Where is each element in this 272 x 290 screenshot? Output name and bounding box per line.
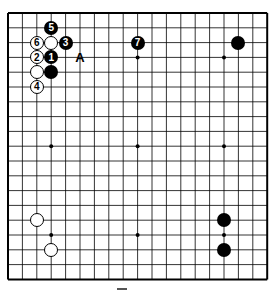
white-stone: 6 [30, 36, 44, 50]
move-number: 7 [135, 37, 141, 48]
black-stone: 3 [59, 36, 73, 50]
white-stone [30, 65, 44, 79]
star-point [222, 55, 226, 59]
white-stone [30, 213, 44, 227]
move-number: 5 [48, 22, 54, 33]
move-number: 3 [63, 37, 69, 48]
white-stone [44, 36, 58, 50]
white-stone [44, 243, 58, 257]
point-marker-label: A [75, 50, 84, 65]
go-board: 5632147A [0, 0, 272, 290]
star-point [136, 55, 140, 59]
move-number: 1 [48, 52, 54, 63]
white-stone: 4 [30, 80, 44, 94]
move-number: 6 [34, 37, 40, 48]
star-point [222, 144, 226, 148]
black-stone: 7 [131, 36, 145, 50]
move-number: 2 [34, 52, 40, 63]
star-point [136, 233, 140, 237]
black-stone: 5 [44, 21, 58, 35]
move-number: 4 [34, 81, 40, 92]
star-point [222, 233, 226, 237]
star-point [49, 233, 53, 237]
star-point [49, 144, 53, 148]
star-point [136, 144, 140, 148]
black-stone [217, 243, 231, 257]
